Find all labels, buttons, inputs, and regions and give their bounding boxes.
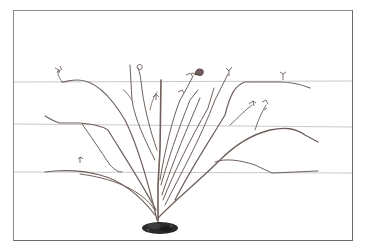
canes	[45, 65, 318, 222]
middle-wire	[14, 124, 352, 127]
leaf-clusters	[55, 65, 286, 163]
plant-illustration	[0, 0, 366, 251]
soil-mound	[142, 222, 178, 234]
